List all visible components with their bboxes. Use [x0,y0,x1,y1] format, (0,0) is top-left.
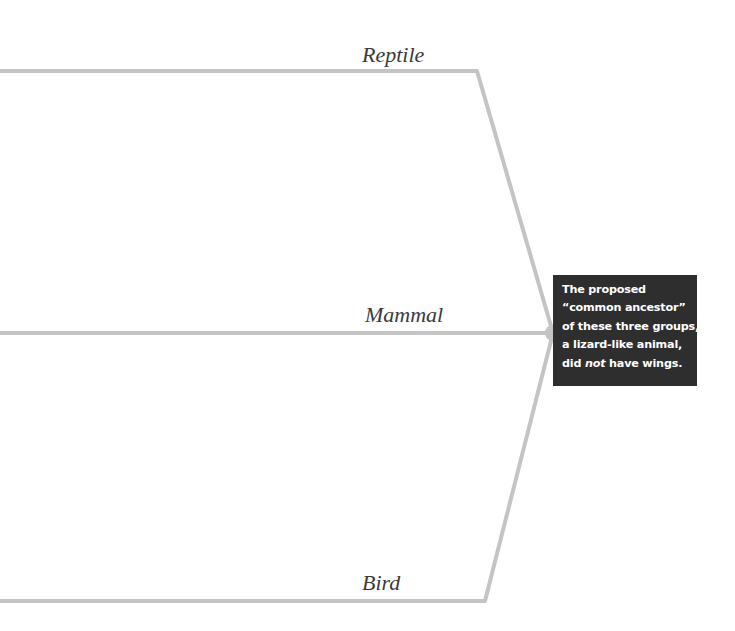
note-line-2: “common ancestor” [562,299,697,317]
note-line-1: The proposed [562,281,697,299]
note-line-5: did not have wings. [562,355,697,373]
label-bird: Bird [362,570,400,596]
note-line-5-pre: did [562,357,585,370]
label-reptile: Reptile [362,42,424,68]
note-line-3: of these three groups, [562,318,697,336]
branch-reptile [0,71,553,333]
branch-bird [0,333,553,601]
common-ancestor-note: The proposed “common ancestor” of these … [553,275,697,386]
label-mammal: Mammal [365,302,443,328]
note-emphasis-not: not [585,357,605,370]
note-line-5-post: have wings. [605,357,682,370]
note-line-4: a lizard-like animal, [562,336,697,354]
